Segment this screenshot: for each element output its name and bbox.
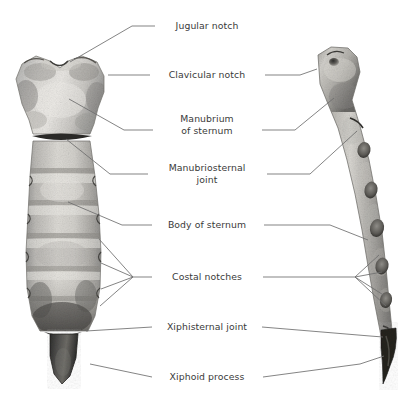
leader-costal-left-1 bbox=[99, 239, 133, 277]
jugular-notch-lateral-marker bbox=[329, 58, 339, 66]
leader-costal-left-4 bbox=[100, 277, 133, 306]
leader-manubrium-right bbox=[262, 98, 334, 130]
leader-clavicular-notch-right bbox=[265, 69, 317, 75]
leader-xiphoid-left bbox=[90, 364, 152, 377]
anterior-view-sternum bbox=[10, 50, 112, 384]
xiphoid-process-anterior bbox=[50, 334, 78, 384]
leader-costal-left-2 bbox=[101, 263, 133, 277]
leader-xiphisternal-right bbox=[262, 327, 383, 337]
leader-xiphoid-right bbox=[263, 356, 384, 377]
leader-xiphisternal-left bbox=[86, 327, 152, 331]
manubrium-anterior bbox=[10, 50, 112, 142]
leader-body-right bbox=[264, 225, 368, 240]
figure-canvas bbox=[0, 0, 414, 399]
anatomy-figure-sternum: Jugular notch Clavicular notch Manubrium… bbox=[0, 0, 414, 399]
leader-costal-left-3 bbox=[101, 277, 133, 289]
